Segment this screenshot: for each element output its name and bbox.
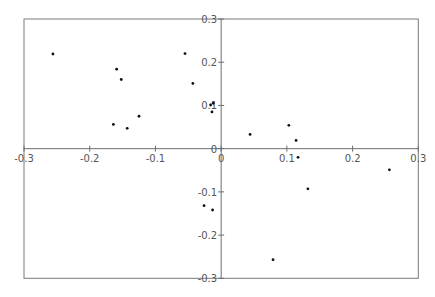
y-tick-label: -0.3 bbox=[198, 273, 218, 284]
y-tick-label: -0.1 bbox=[198, 187, 218, 198]
data-point bbox=[52, 53, 55, 56]
data-point bbox=[249, 133, 252, 136]
y-tick-label: 0 bbox=[211, 144, 217, 155]
x-tick-label: 0 bbox=[218, 153, 224, 164]
data-point bbox=[388, 168, 391, 171]
x-tick-label: 0.3 bbox=[410, 153, 426, 164]
x-tick-label: -0.2 bbox=[80, 153, 100, 164]
data-point bbox=[287, 124, 290, 127]
data-point bbox=[295, 139, 298, 142]
data-point bbox=[211, 209, 214, 212]
data-point bbox=[120, 78, 123, 81]
scatter-chart: -0.3-0.2-0.100.10.20.3 -0.3-0.2-0.100.10… bbox=[0, 0, 435, 297]
data-point bbox=[212, 102, 215, 105]
data-point bbox=[297, 156, 300, 159]
data-point bbox=[184, 52, 187, 55]
data-point bbox=[126, 127, 129, 130]
x-tick-label: 0.2 bbox=[345, 153, 361, 164]
data-point bbox=[138, 115, 141, 118]
data-point bbox=[115, 68, 118, 71]
y-tick-label: -0.2 bbox=[198, 230, 218, 241]
data-point bbox=[191, 82, 194, 85]
y-tick-label: 0.2 bbox=[201, 57, 217, 68]
y-tick-label: 0.1 bbox=[201, 100, 217, 111]
x-tick-label: -0.1 bbox=[146, 153, 166, 164]
x-tick-label: -0.3 bbox=[14, 153, 34, 164]
data-point bbox=[211, 111, 214, 114]
x-tick-label: 0.1 bbox=[279, 153, 295, 164]
data-point bbox=[209, 104, 212, 107]
data-point bbox=[203, 204, 206, 207]
y-tick-label: 0.3 bbox=[201, 14, 217, 25]
data-point bbox=[306, 187, 309, 190]
data-point bbox=[112, 123, 115, 126]
data-point bbox=[272, 258, 275, 261]
